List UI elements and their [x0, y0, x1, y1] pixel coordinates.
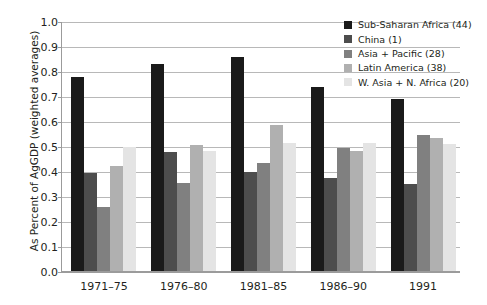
x-tick-label: 1981–85	[240, 280, 288, 293]
y-tick-mark	[58, 22, 62, 23]
y-tick-mark	[58, 122, 62, 123]
legend-swatch-icon	[344, 50, 352, 58]
y-tick-label: 0.9	[41, 42, 59, 53]
bar	[404, 184, 417, 272]
bar	[71, 77, 84, 271]
legend-label: Asia + Pacific (28)	[358, 49, 445, 59]
legend-item: Sub-Saharan Africa (44)	[344, 18, 487, 32]
legend-item: Asia + Pacific (28)	[344, 47, 487, 61]
y-tick-mark	[58, 247, 62, 248]
y-tick-label: 1.0	[41, 17, 59, 28]
y-tick-label: 0.0	[41, 267, 59, 278]
bar	[283, 143, 296, 271]
legend-swatch-icon	[344, 64, 352, 72]
chart-legend: Sub-Saharan Africa (44)China (1)Asia + P…	[344, 18, 487, 89]
y-tick-mark	[58, 147, 62, 148]
x-tick-label: 1991	[409, 280, 437, 293]
legend-swatch-icon	[344, 21, 352, 29]
bar	[350, 151, 363, 271]
y-gridline	[62, 272, 460, 273]
bar	[430, 138, 443, 271]
legend-swatch-icon	[344, 35, 352, 43]
bar	[311, 87, 324, 271]
legend-swatch-icon	[344, 78, 352, 86]
legend-item: China (1)	[344, 32, 487, 46]
y-tick-label: 0.5	[41, 142, 59, 153]
y-tick-mark	[58, 172, 62, 173]
bar-group	[71, 22, 136, 271]
bar	[337, 148, 350, 271]
bar	[391, 99, 404, 272]
legend-item: Latin America (38)	[344, 61, 487, 75]
bar	[363, 143, 376, 271]
legend-label: China (1)	[358, 35, 402, 45]
y-axis-title: As Percent of AgGDP (weighted averages)	[28, 21, 40, 261]
bar	[443, 144, 456, 272]
bar	[257, 163, 270, 271]
y-tick-mark	[58, 72, 62, 73]
x-tick-label: 1976–80	[160, 280, 208, 293]
bar	[190, 145, 203, 271]
bar	[203, 151, 216, 272]
bar	[231, 57, 244, 271]
y-tick-mark	[58, 222, 62, 223]
bar	[97, 207, 110, 271]
legend-label: Sub-Saharan Africa (44)	[358, 20, 472, 30]
y-tick-label: 0.7	[41, 92, 59, 103]
bar	[324, 178, 337, 271]
bar	[417, 135, 430, 271]
bar	[110, 166, 123, 271]
bar	[270, 125, 283, 271]
bar-group	[151, 22, 216, 271]
bar	[164, 152, 177, 271]
y-tick-label: 0.3	[41, 192, 59, 203]
bar	[177, 183, 190, 271]
y-tick-label: 0.8	[41, 67, 59, 78]
y-tick-label: 0.2	[41, 217, 59, 228]
x-tick-label: 1986–90	[320, 280, 368, 293]
bar-chart-figure: As Percent of AgGDP (weighted averages) …	[0, 0, 487, 305]
y-tick-mark	[58, 197, 62, 198]
y-tick-label: 0.4	[41, 167, 59, 178]
legend-label: Latin America (38)	[358, 63, 446, 73]
y-tick-label: 0.1	[41, 242, 59, 253]
bar	[244, 172, 257, 272]
legend-item: W. Asia + N. Africa (20)	[344, 75, 487, 89]
bar	[123, 147, 136, 271]
y-tick-mark	[58, 47, 62, 48]
bar	[151, 64, 164, 272]
y-tick-mark	[58, 97, 62, 98]
bar-group	[231, 22, 296, 271]
bar	[84, 173, 97, 271]
legend-label: W. Asia + N. Africa (20)	[358, 78, 469, 88]
y-tick-label: 0.6	[41, 117, 59, 128]
y-tick-mark	[58, 272, 62, 273]
x-tick-label: 1971–75	[80, 280, 128, 293]
